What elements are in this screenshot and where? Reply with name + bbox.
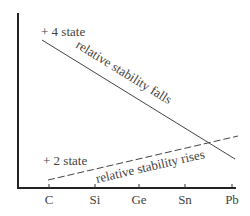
tick-label-si: Si — [90, 192, 101, 207]
plus2-state-label: + 2 state — [43, 153, 87, 168]
stability-diagram: C Si Ge Sn Pb + 4 state + 2 state relati… — [0, 0, 250, 216]
plus4-state-label: + 4 state — [41, 24, 85, 39]
falls-annotation: relative stability falls — [73, 37, 174, 107]
tick-label-sn: Sn — [178, 192, 192, 207]
plus4-stability-line — [42, 40, 235, 159]
tick-label-pb: Pb — [225, 192, 239, 207]
rises-annotation: relative stability rises — [94, 146, 206, 186]
tick-label-ge: Ge — [131, 192, 146, 207]
tick-label-c: C — [45, 192, 54, 207]
